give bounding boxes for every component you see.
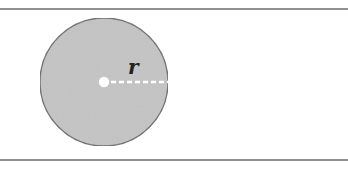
circle-radius-diagram: r bbox=[0, 0, 348, 171]
radius-label: r bbox=[128, 55, 140, 79]
center-point-dot bbox=[99, 77, 109, 87]
